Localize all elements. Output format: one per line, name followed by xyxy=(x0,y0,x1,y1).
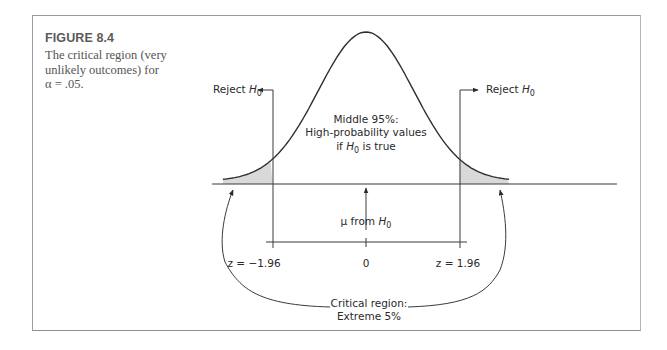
reject-right-label: Reject H0 xyxy=(486,83,535,98)
critical-region-label: Critical region: xyxy=(331,297,408,309)
z-right-label: z = 1.96 xyxy=(436,257,481,269)
right-critical-region xyxy=(460,159,510,184)
z-left-label: z = −1.96 xyxy=(227,257,280,269)
extreme-5-label: Extreme 5% xyxy=(337,310,401,322)
high-probability-label: High-probability values xyxy=(305,126,426,138)
critical-left-arrow-icon xyxy=(222,190,330,307)
reject-left-label: Reject H0 xyxy=(213,83,262,98)
normal-distribution-diagram: Reject H0 Reject H0 Middle 95%: High-pro… xyxy=(0,0,667,350)
if-h0-true-label: if H0 is true xyxy=(336,140,396,155)
critical-right-arrow-icon xyxy=(408,190,506,307)
normal-curve xyxy=(223,32,509,179)
middle-95-label: Middle 95%: xyxy=(334,113,399,125)
zero-label: 0 xyxy=(363,257,370,269)
